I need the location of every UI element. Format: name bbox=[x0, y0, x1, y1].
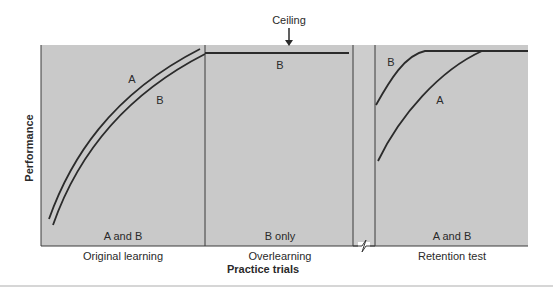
panel-label-original-learning: Original learning bbox=[83, 250, 163, 262]
curve-label-b-overlearning: B bbox=[276, 59, 283, 71]
panel-original-overlearning-background bbox=[41, 45, 353, 246]
axis-break-gap bbox=[353, 45, 375, 246]
panel-label-overlearning: Overlearning bbox=[249, 250, 312, 262]
curve-label-b-retention: B bbox=[387, 56, 394, 68]
ceiling-label: Ceiling bbox=[272, 14, 306, 26]
curve-label-a-original: A bbox=[128, 73, 136, 85]
group-label-retention: A and B bbox=[433, 230, 472, 242]
chart-svg: Ceiling A B B B A A and B B only A and B… bbox=[0, 0, 553, 289]
learning-figure: Ceiling A B B B A A and B B only A and B… bbox=[0, 0, 553, 289]
y-axis-label: Performance bbox=[23, 114, 35, 181]
panel-retention-background bbox=[375, 45, 528, 246]
curve-label-a-retention: A bbox=[436, 94, 444, 106]
bottom-divider bbox=[0, 285, 553, 287]
curve-label-b-original: B bbox=[156, 94, 163, 106]
group-label-overlearning: B only bbox=[265, 230, 296, 242]
x-axis-label: Practice trials bbox=[227, 263, 299, 275]
panel-label-retention-test: Retention test bbox=[418, 250, 486, 262]
group-label-original: A and B bbox=[104, 230, 143, 242]
